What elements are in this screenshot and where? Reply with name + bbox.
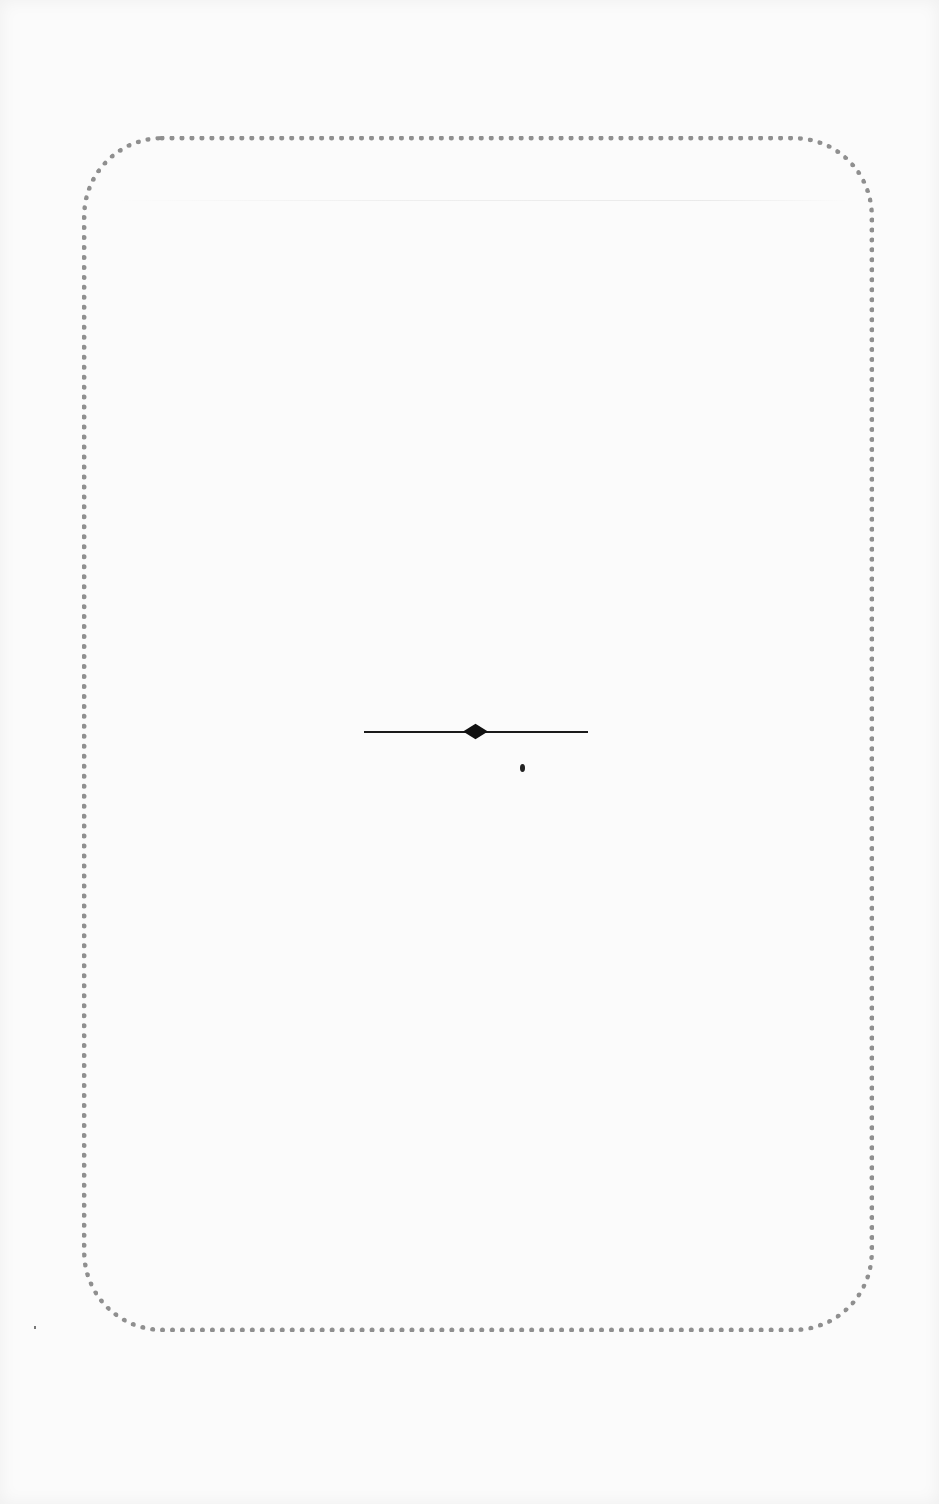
ink-dot-mark [520, 764, 525, 772]
faint-header-rule [110, 200, 850, 201]
stray-mark [34, 1326, 36, 1329]
